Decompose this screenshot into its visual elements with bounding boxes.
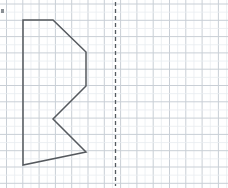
left-edge-mark [1, 9, 4, 13]
figure-and-symmetry-layer [0, 0, 228, 188]
worksheet-canvas [0, 0, 228, 188]
polygon-shape[interactable] [23, 20, 86, 165]
